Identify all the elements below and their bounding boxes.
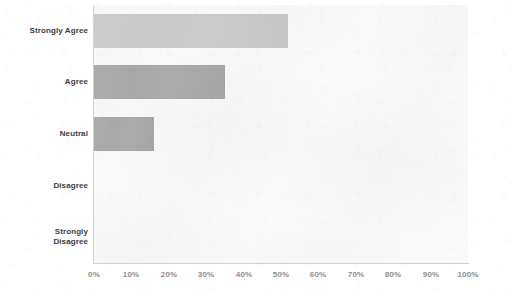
bar <box>94 65 225 99</box>
x-tick-label: 40% <box>224 270 264 279</box>
x-tick-label: 30% <box>186 270 226 279</box>
category-tick-label: Strongly Agree <box>30 26 88 36</box>
x-tick-label: 10% <box>111 270 151 279</box>
x-tick-label: 50% <box>261 270 301 279</box>
x-tick-label: 100% <box>448 270 488 279</box>
category-tick-label: Disagree <box>53 181 88 191</box>
bar-shading <box>94 117 154 151</box>
x-tick-label: 90% <box>411 270 451 279</box>
bar-chart-figure: Strongly AgreeAgreeNeutralDisagreeStrong… <box>0 0 511 296</box>
x-tick-label: 70% <box>336 270 376 279</box>
bar <box>94 14 288 48</box>
category-tick-label: Neutral <box>60 129 88 139</box>
x-axis-line <box>93 263 469 264</box>
category-tick-label: Agree <box>65 77 88 87</box>
x-tick-label: 0% <box>74 270 114 279</box>
bar <box>94 117 154 151</box>
x-tick-label: 60% <box>298 270 338 279</box>
x-tick-label: 20% <box>149 270 189 279</box>
bar-shading <box>94 14 288 48</box>
x-tick-label: 80% <box>373 270 413 279</box>
bar-shading <box>94 65 225 99</box>
category-tick-label: Strongly Disagree <box>53 227 88 247</box>
